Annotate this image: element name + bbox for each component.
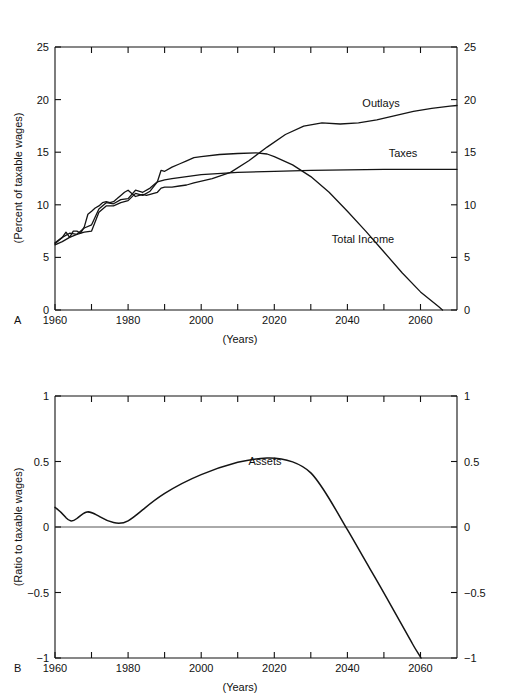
series-label-assets: Assets: [248, 455, 282, 467]
ytick-label-right: −1: [464, 652, 477, 664]
xtick-label: 2020: [262, 314, 286, 326]
chart-a-xtick-labels: 1960 1980 2000 2020 2040 2060: [43, 314, 433, 326]
ytick-label: −0.5: [27, 587, 49, 599]
chart-b-svg: 1 0.5 0 −0.5 −1 1 0.5 0 −0.5 −1: [0, 350, 506, 699]
series-label-total-income: Total Income: [332, 233, 394, 245]
panel-letter-a: A: [14, 314, 22, 326]
ytick-label-right: −0.5: [464, 587, 486, 599]
x-axis-title-a: (Years): [222, 333, 257, 345]
xtick-label: 1980: [116, 662, 140, 674]
ytick-label: 15: [37, 146, 49, 158]
xtick-label: 2040: [335, 662, 359, 674]
chart-b-yticks-right: [451, 396, 457, 658]
series-label-outlays: Outlays: [362, 97, 400, 109]
xtick-label: 2060: [408, 662, 432, 674]
chart-a-ytick-labels-right: 0 5 10 15 20 25: [464, 41, 476, 316]
chart-a-xticks-bottom: [55, 304, 421, 310]
chart-b-ytick-labels-right: 1 0.5 0 −0.5 −1: [464, 390, 486, 664]
ytick-label-right: 1: [464, 390, 470, 402]
chart-a-svg: 0 5 10 15 20 25 0 5 10 15 20: [0, 0, 506, 350]
ytick-label: 0.5: [34, 456, 49, 468]
chart-b-xtick-labels: 1960 1980 2000 2020 2040 2060: [43, 662, 433, 674]
chart-b-yticks-left: [55, 396, 61, 658]
chart-a-yticks-left: [55, 47, 61, 310]
chart-a-yticks-right: [451, 47, 457, 310]
chart-b-xticks-bottom: [55, 652, 421, 658]
ytick-label: 1: [43, 390, 49, 402]
series-label-taxes: Taxes: [389, 147, 418, 159]
chart-a-xticks-top: [92, 47, 421, 53]
ytick-label: 20: [37, 94, 49, 106]
xtick-label: 2060: [408, 314, 432, 326]
xtick-label: 2040: [335, 314, 359, 326]
xtick-label: 2020: [262, 662, 286, 674]
ytick-label-right: 0.5: [464, 456, 479, 468]
series-line-taxes: [55, 169, 457, 245]
chart-panel-b: 1 0.5 0 −0.5 −1 1 0.5 0 −0.5 −1: [0, 350, 506, 699]
x-axis-title-b: (Years): [222, 681, 257, 693]
series-line-outlays: [55, 106, 457, 244]
xtick-label: 1980: [116, 314, 140, 326]
xtick-label: 1960: [43, 662, 67, 674]
ytick-label: 10: [37, 199, 49, 211]
chart-b-ytick-labels-left: 1 0.5 0 −0.5 −1: [27, 390, 49, 664]
y-axis-title-b: (Ratio to taxable wages): [12, 468, 24, 587]
ytick-label-right: 5: [464, 251, 470, 263]
xtick-label: 2000: [189, 314, 213, 326]
ytick-label-right: 15: [464, 146, 476, 158]
series-line-total-income: [55, 153, 443, 310]
figure-container: 0 5 10 15 20 25 0 5 10 15 20: [0, 0, 506, 699]
ytick-label: 0: [43, 521, 49, 533]
series-line-assets: [55, 458, 421, 658]
y-axis-title-a: (Percent of taxable wages): [12, 113, 24, 244]
chart-panel-a: 0 5 10 15 20 25 0 5 10 15 20: [0, 0, 506, 350]
panel-letter-b: B: [14, 662, 21, 674]
chart-b-xticks-top: [92, 396, 421, 402]
xtick-label: 2000: [189, 662, 213, 674]
ytick-label-right: 0: [464, 304, 470, 316]
ytick-label-right: 20: [464, 94, 476, 106]
ytick-label: 25: [37, 41, 49, 53]
ytick-label-right: 25: [464, 41, 476, 53]
chart-a-axes: [55, 47, 457, 310]
chart-a-ytick-labels-left: 0 5 10 15 20 25: [37, 41, 49, 316]
ytick-label-right: 10: [464, 199, 476, 211]
xtick-label: 1960: [43, 314, 67, 326]
ytick-label-right: 0: [464, 521, 470, 533]
ytick-label: 5: [43, 251, 49, 263]
